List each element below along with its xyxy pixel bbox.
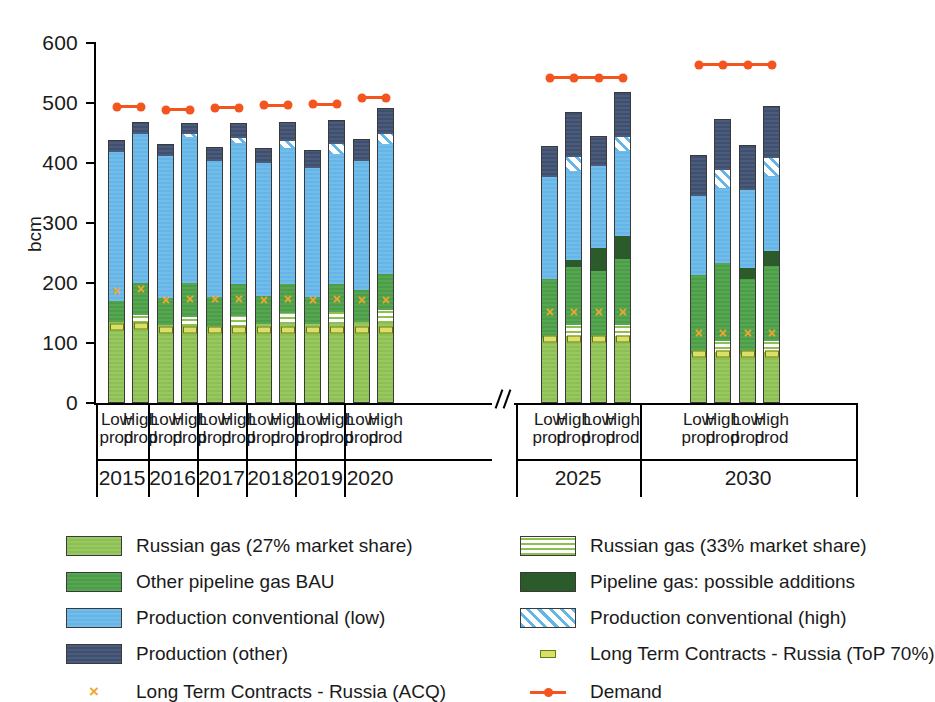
ltc-acq-marker: ×: [569, 305, 577, 319]
bar-segment-prodhigh: [181, 134, 198, 137]
legend-label: Long Term Contracts - Russia (ACQ): [136, 682, 446, 702]
y-tick-mark: [86, 162, 94, 164]
scenario-year-divider-right: [516, 459, 856, 461]
bar-segment-prodother: [304, 150, 321, 167]
legend-item-rus33[interactable]: Russian gas (33% market share): [520, 536, 867, 556]
bar-2030-low-prod[interactable]: [690, 155, 707, 403]
legend-label: Russian gas (33% market share): [590, 536, 867, 556]
bar-segment-prodlow: [304, 168, 321, 297]
bar-segment-rus27: [206, 327, 223, 403]
y-tick-label: 200: [18, 272, 78, 293]
bar-2025-high-prod[interactable]: [565, 112, 582, 403]
ltc-top70-marker: [355, 327, 369, 334]
bar-2018-high-prod[interactable]: [279, 122, 296, 403]
bar-2018-low-prod[interactable]: [255, 148, 272, 403]
x-year-label: 2018: [246, 467, 295, 489]
bar-segment-rus27: [132, 323, 149, 403]
bar-segment-rus33: [279, 313, 296, 324]
y-tick-mark: [86, 402, 94, 404]
bar-segment-prodother: [108, 140, 125, 151]
ltc-acq-marker: ×: [112, 284, 120, 298]
scenario-name: High: [605, 410, 640, 429]
legend-label: Production (other): [136, 644, 288, 664]
bar-segment-prodother: [181, 123, 198, 134]
demand-icon: [520, 682, 576, 702]
legend-swatch-rus33: [520, 536, 576, 556]
legend-label: Production conventional (high): [590, 608, 847, 628]
bar-segment-rus27: [714, 354, 731, 403]
scenario-name: High: [754, 410, 789, 429]
bar-segment-prodlow: [353, 161, 370, 291]
bar-segment-prodother: [206, 147, 223, 161]
bar-2020-low-prod[interactable]: [353, 139, 370, 403]
bar-segment-prodother: [132, 122, 149, 133]
ltc-acq-marker: ×: [767, 326, 775, 340]
bar-2025-low-prod[interactable]: [590, 136, 607, 403]
bar-segment-pipebau: [108, 301, 125, 322]
legend-item-rus27[interactable]: Russian gas (27% market share): [66, 536, 413, 556]
bar-segment-prodlow: [279, 148, 296, 284]
ltc-acq-marker: ×: [381, 293, 389, 307]
x-axis-line-right: [514, 403, 856, 405]
ltc-acq-marker: ×: [718, 326, 726, 340]
bar-2020-high-prod[interactable]: [377, 108, 394, 403]
bar-2025-high-prod[interactable]: [614, 92, 631, 403]
ltc-top70-marker: [592, 335, 606, 342]
bar-2016-high-prod[interactable]: [181, 123, 198, 403]
bar-2015-low-prod[interactable]: [108, 140, 125, 403]
legend-item-acq[interactable]: ×Long Term Contracts - Russia (ACQ): [66, 682, 446, 702]
ltc-top70-marker: [134, 323, 148, 330]
legend-item-top70[interactable]: Long Term Contracts - Russia (ToP 70%): [520, 644, 935, 664]
legend-item-pipeadd[interactable]: Pipeline gas: possible additions: [520, 572, 855, 592]
ltc-acq-marker: ×: [259, 293, 267, 307]
bar-2016-low-prod[interactable]: [157, 144, 174, 403]
x-year-label: 2025: [516, 467, 640, 489]
bar-segment-prodhigh: [714, 170, 731, 187]
legend-item-prodother[interactable]: Production (other): [66, 644, 288, 664]
legend-item-prodlow[interactable]: Production conventional (low): [66, 608, 385, 628]
bar-2019-high-prod[interactable]: [328, 120, 345, 403]
demand-point: [234, 103, 243, 112]
ltc-top70-marker: [330, 327, 344, 334]
bar-2025-low-prod[interactable]: [541, 146, 558, 403]
demand-point: [618, 73, 627, 82]
bar-segment-rus27: [690, 354, 707, 403]
bar-segment-rus27: [157, 325, 174, 403]
bar-segment-prodother: [739, 145, 756, 190]
ltc-acq-marker: ×: [161, 293, 169, 307]
bar-2030-high-prod[interactable]: [714, 119, 731, 403]
bar-2017-low-prod[interactable]: [206, 147, 223, 403]
legend-label: Pipeline gas: possible additions: [590, 572, 855, 592]
bar-segment-prodlow: [763, 176, 780, 252]
y-tick-label: 400: [18, 152, 78, 173]
bar-2030-high-prod[interactable]: [763, 106, 780, 403]
bar-segment-rus27: [763, 354, 780, 403]
demand-point: [694, 60, 703, 69]
legend-label: Production conventional (low): [136, 608, 385, 628]
legend-label: Demand: [590, 682, 662, 702]
legend-item-prodhigh[interactable]: Production conventional (high): [520, 608, 847, 628]
ltc-top70-marker: [741, 350, 755, 357]
bar-2030-low-prod[interactable]: [739, 145, 756, 403]
legend-item-demand[interactable]: Demand: [520, 682, 662, 702]
bar-2015-high-prod[interactable]: [132, 122, 149, 403]
bar-segment-prodhigh: [377, 134, 394, 145]
legend-item-pipebau[interactable]: Other pipeline gas BAU: [66, 572, 335, 592]
bar-segment-rus27: [279, 324, 296, 403]
ltc-top70-marker: [257, 327, 271, 334]
x-year-label: 2017: [197, 467, 246, 489]
ltc-acq-marker: ×: [743, 326, 751, 340]
ltc-top70-marker: [281, 327, 295, 334]
bar-segment-rus27: [614, 338, 631, 403]
legend-label: Other pipeline gas BAU: [136, 572, 335, 592]
ltc-acq-marker: ×: [357, 293, 365, 307]
bar-segment-prodhigh: [279, 141, 296, 148]
ltc-top70-marker: [110, 323, 124, 330]
bar-segment-prodlow: [377, 144, 394, 274]
bar-segment-prodlow: [230, 143, 247, 283]
bar-2019-low-prod[interactable]: [304, 150, 321, 403]
bar-segment-prodlow: [690, 196, 707, 275]
ltc-acq-marker: ×: [210, 292, 218, 306]
bar-2017-high-prod[interactable]: [230, 123, 247, 403]
